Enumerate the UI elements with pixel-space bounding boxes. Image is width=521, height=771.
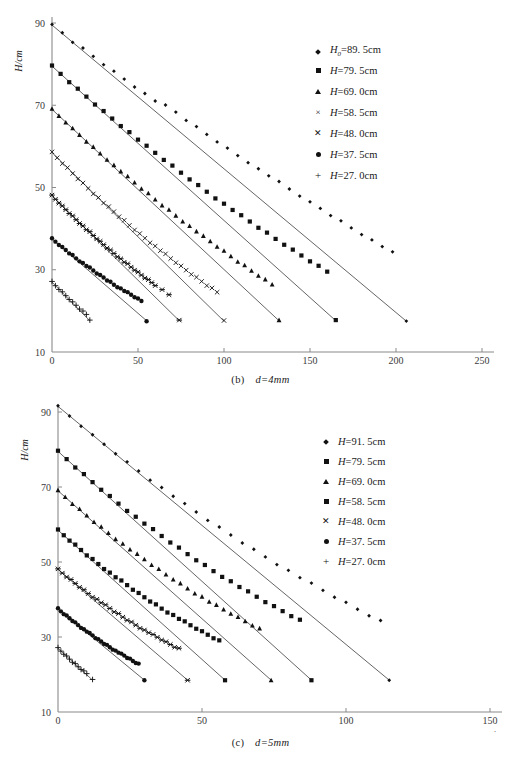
series-6	[55, 645, 95, 682]
legend-label-0: H0=89. 5cm	[326, 44, 381, 58]
x-tick-label: 50	[133, 355, 143, 366]
x-axis-title: t/s	[489, 729, 499, 732]
legend-marker-plus-icon: +	[310, 171, 326, 181]
series-fit-line	[58, 530, 225, 680]
figure-page: 1030507090050100150200250H/cmt/s (b) d=4…	[0, 0, 521, 771]
legend-marker-star-icon: ✕	[318, 517, 334, 526]
series-fit-line	[58, 451, 311, 680]
chart-c-caption-prefix: (c)	[232, 737, 245, 748]
legend-label-3: H=58. 5cm	[334, 496, 385, 507]
y-tick-label: 70	[35, 100, 45, 111]
legend-marker-triangle-icon	[310, 87, 326, 96]
chart-b-svg: 1030507090050100150200250H/cmt/s	[0, 0, 521, 370]
chart-c-svg: 1030507090050100150H/cmt/s	[0, 392, 521, 732]
legend-label-2: H=69. 0cm	[326, 86, 377, 97]
legend-item-4: ✕H=48. 0cm	[310, 128, 377, 139]
y-tick-label: 50	[35, 182, 45, 193]
chart-c-caption-body: d=5mm	[255, 737, 289, 748]
legend-item-6: +H=27. 0cm	[318, 556, 385, 567]
series-5	[56, 606, 147, 682]
legend-marker-diamond-icon	[318, 437, 334, 446]
legend-item-2: H=69. 0cm	[318, 476, 385, 487]
x-tick-label: 0	[56, 715, 61, 726]
chart-b-caption-prefix: (b)	[231, 374, 244, 385]
legend-label-1: H=79. 5cm	[326, 65, 377, 76]
x-tick-label: 150	[483, 715, 498, 726]
legend-item-0: H0=89. 5cm	[310, 44, 381, 58]
legend-label-4: H=48. 0cm	[326, 128, 377, 139]
legend-label-1: H=79. 5cm	[334, 456, 385, 467]
legend-label-5: H=37. 5cm	[326, 149, 377, 160]
series-6	[49, 279, 92, 323]
x-tick-label: 0	[50, 355, 55, 366]
chart-panel-c: 1030507090050100150H/cmt/s (c) d=5mm H=9…	[0, 392, 521, 771]
legend-item-3: H=58. 5cm	[318, 496, 385, 507]
legend-item-4: ✕H=48. 0cm	[318, 516, 385, 527]
y-axis-title: H/cm	[13, 50, 24, 73]
legend-item-5: H=37. 5cm	[310, 149, 377, 160]
series-2	[50, 106, 282, 322]
series-1	[56, 449, 314, 683]
chart-b-caption: (b) d=4mm	[0, 374, 521, 385]
legend-item-6: +H=27. 0cm	[310, 170, 377, 181]
legend-marker-square-icon	[318, 497, 334, 506]
y-tick-label: 50	[41, 557, 51, 568]
legend-label-6: H=27. 0cm	[334, 556, 385, 567]
legend-marker-square-icon	[318, 457, 334, 466]
legend-marker-star-icon: ✕	[310, 129, 326, 138]
chart-b-caption-body: d=4mm	[255, 374, 289, 385]
legend-marker-circle-icon	[318, 537, 334, 546]
y-tick-label: 10	[41, 707, 51, 718]
x-tick-label: 100	[339, 715, 354, 726]
x-tick-label: 250	[475, 355, 490, 366]
chart-panel-b: 1030507090050100150200250H/cmt/s (b) d=4…	[0, 0, 521, 400]
legend-item-2: H=69. 0cm	[310, 86, 377, 97]
y-tick-label: 90	[35, 18, 45, 29]
legend-item-5: H=37. 5cm	[318, 536, 385, 547]
y-axis-title: H/cm	[19, 439, 30, 462]
y-tick-label: 70	[41, 482, 51, 493]
y-tick-label: 10	[35, 347, 45, 358]
legend-item-1: H=79. 5cm	[318, 456, 385, 467]
x-axis-title: t/s	[481, 369, 491, 370]
legend-item-0: H=91. 5cm	[318, 436, 385, 447]
legend-label-5: H=37. 5cm	[334, 536, 385, 547]
legend-marker-square-icon	[310, 66, 326, 75]
chart-c-caption: (c) d=5mm	[0, 737, 521, 748]
x-tick-label: 200	[389, 355, 404, 366]
legend-marker-plus-icon: +	[318, 557, 334, 567]
legend-label-4: H=48. 0cm	[334, 516, 385, 527]
y-tick-label: 30	[41, 632, 51, 643]
legend-item-1: H=79. 5cm	[310, 65, 377, 76]
legend-label-0: H=91. 5cm	[334, 436, 385, 447]
series-3	[56, 527, 227, 682]
legend-item-3: ×H=58. 5cm	[310, 107, 377, 118]
legend-label-6: H=27. 0cm	[326, 170, 377, 181]
legend-marker-circle-icon	[310, 150, 326, 159]
x-tick-label: 100	[217, 355, 232, 366]
legend-label-3: H=58. 5cm	[326, 107, 377, 118]
y-tick-label: 30	[35, 264, 45, 275]
x-tick-label: 150	[303, 355, 318, 366]
series-5	[50, 236, 149, 323]
legend-label-2: H=69. 0cm	[334, 476, 385, 487]
series-fit-line	[52, 153, 224, 322]
legend-marker-x-icon: ×	[310, 108, 326, 117]
x-tick-label: 50	[197, 715, 207, 726]
legend-marker-triangle-icon	[318, 477, 334, 486]
y-tick-label: 90	[41, 407, 51, 418]
legend-marker-diamond-icon	[310, 47, 326, 56]
